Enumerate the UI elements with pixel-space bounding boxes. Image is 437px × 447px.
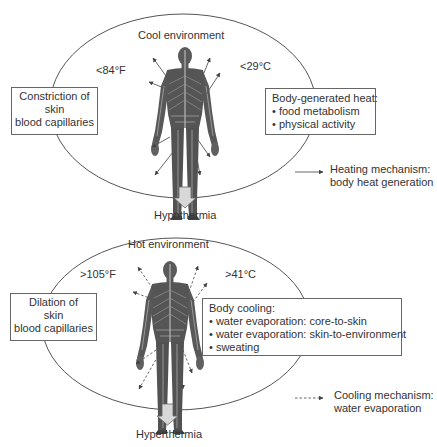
cooling-legend-line-1: Cooling mechanism: (334, 389, 434, 402)
heating-legend-line-1: Heating mechanism: (330, 163, 433, 176)
cooling-legend-line-2: water evaporation (334, 402, 434, 415)
body-cooling-item-3: • sweating (209, 341, 401, 354)
constriction-line-1: Constriction of (12, 90, 97, 103)
cool-temp-fahrenheit: <84°F (96, 64, 126, 77)
diagram-canvas (0, 0, 437, 447)
body-heat-heading: Body-generated heat: (272, 92, 375, 105)
body-generated-heat-box: Body-generated heat: • food metabolism •… (265, 88, 376, 135)
hot-temp-celsius: >41°C (225, 268, 256, 281)
body-cooling-heading: Body cooling: (209, 302, 401, 315)
body-heat-item-1: • food metabolism (272, 105, 375, 118)
constriction-line-3: blood capillaries (12, 116, 97, 129)
heating-legend: Heating mechanism: body heat generation (330, 163, 433, 189)
body-cooling-box: Body cooling: • water evaporation: core-… (202, 298, 402, 356)
cool-temp-celsius: <29°C (240, 60, 271, 73)
constriction-box: Constriction of skin blood capillaries (11, 87, 98, 135)
dilation-line-1: Dilation of (11, 296, 96, 309)
dilation-line-2: skin (11, 309, 96, 322)
body-cooling-item-1: • water evaporation: core-to-skin (209, 315, 401, 328)
cool-environment-title: Cool environment (138, 29, 224, 42)
constriction-line-2: skin (12, 103, 97, 116)
hyperthermia-label: Hyperthermia (136, 428, 202, 441)
body-heat-item-2: • physical activity (272, 118, 375, 131)
heating-legend-line-2: body heat generation (330, 176, 433, 189)
cooling-legend: Cooling mechanism: water evaporation (334, 389, 434, 415)
hypothermia-label: Hypothermia (154, 209, 216, 222)
hot-temp-fahrenheit: >105°F (80, 268, 116, 281)
dilation-box: Dilation of skin blood capillaries (10, 293, 97, 341)
body-cooling-item-2: • water evaporation: skin-to-environment (209, 328, 401, 341)
dilation-line-3: blood capillaries (11, 322, 96, 335)
hot-environment-title: Hot environment (128, 238, 209, 251)
